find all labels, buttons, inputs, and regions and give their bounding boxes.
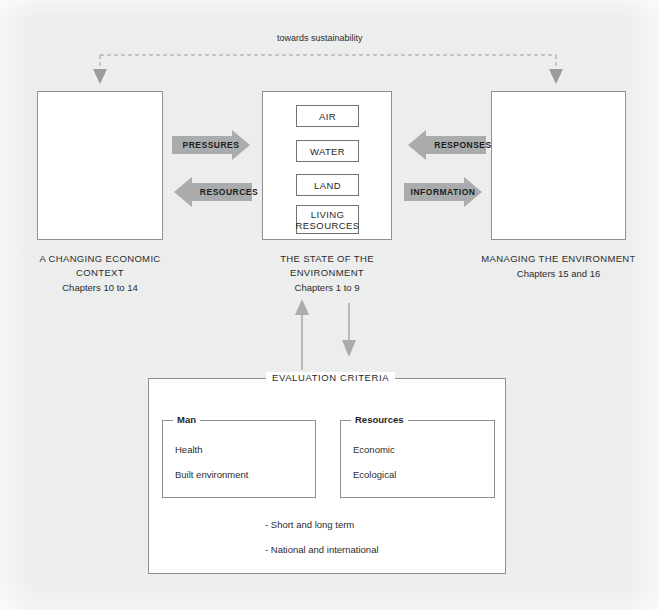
evaluation-group-resources [340,420,495,498]
environment-media-water[interactable]: WATER [296,140,359,162]
arrowhead-down-left [93,69,107,84]
economic-context-box[interactable] [37,91,163,240]
arrow-shape-state-to-criteria [342,303,356,357]
evaluation-group-man-title: Man [173,414,200,425]
diagram-canvas: towards sustainability Agriculture Indus… [0,0,659,610]
evaluation-man-item-health: Health [175,444,202,455]
state-of-environment-caption-line-2: ENVIRONMENT [244,266,410,280]
evaluation-resources-item-ecological: Ecological [353,469,396,480]
evaluation-criteria-title: EVALUATION CRITERIA [266,372,395,383]
flow-arrow-pressures[interactable]: PRESSURES [172,130,250,160]
evaluation-note-national-international: - National and international [265,544,379,555]
flow-arrow-information[interactable]: INFORMATION [404,177,482,207]
economic-context-caption-line-1: A CHANGING ECONOMIC [17,252,183,266]
managing-environment-box[interactable] [491,91,626,240]
evaluation-note-short-long-term: - Short and long term [265,519,354,530]
economic-context-chapters: Chapters 10 to 14 [17,280,183,295]
managing-environment-caption-line-1: MANAGING THE ENVIRONMENT [470,252,647,266]
evaluation-man-item-built-environment: Built environment [175,469,248,480]
environment-media-air[interactable]: AIR [296,105,359,127]
arrow-shape-criteria-to-state [295,299,309,370]
managing-environment-caption: MANAGING THE ENVIRONMENT Chapters 15 and… [470,252,647,281]
economic-context-caption-line-2: CONTEXT [17,266,183,280]
environment-media-land[interactable]: LAND [296,174,359,196]
flow-arrow-responses[interactable]: RESPONSES [408,130,486,160]
arrowhead-down-right [549,69,563,84]
towards-sustainability-link [93,55,563,84]
environment-media-living-resources[interactable]: LIVING RESOURCES [296,205,359,234]
flow-arrow-resources[interactable]: RESOURCES [174,177,252,207]
evaluation-group-resources-title: Resources [351,414,408,425]
towards-sustainability-label: towards sustainability [277,33,363,43]
managing-environment-chapters: Chapters 15 and 16 [470,266,647,281]
evaluation-group-man [162,420,316,498]
state-of-environment-caption: THE STATE OF THE ENVIRONMENT Chapters 1 … [244,252,410,295]
state-of-environment-caption-line-1: THE STATE OF THE [244,252,410,266]
evaluation-resources-item-economic: Economic [353,444,395,455]
economic-context-caption: A CHANGING ECONOMIC CONTEXT Chapters 10 … [17,252,183,295]
state-of-environment-chapters: Chapters 1 to 9 [244,280,410,295]
